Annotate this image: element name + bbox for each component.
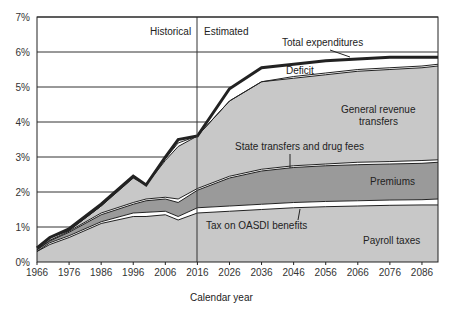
- y-tick-label: 3%: [16, 152, 31, 163]
- pointer-total-expenditures: [330, 50, 350, 57]
- x-tick-label: 2076: [379, 267, 402, 278]
- label-premiums: Premiums: [370, 176, 415, 187]
- x-axis-ticks: 1966197619861996200620162026203620462056…: [26, 262, 434, 278]
- stacked-areas: [37, 57, 438, 262]
- y-tick-label: 1%: [16, 222, 31, 233]
- y-tick-label: 7%: [16, 12, 31, 23]
- historical-label: Historical: [150, 26, 191, 37]
- label-state-transfers: State transfers and drug fees: [235, 141, 364, 152]
- x-tick-label: 2026: [218, 267, 241, 278]
- x-tick-label: 2046: [283, 267, 306, 278]
- label-tax-oasdi: Tax on OASDI benefits: [206, 220, 307, 231]
- label-total-expenditures: Total expenditures: [282, 37, 363, 48]
- y-tick-label: 5%: [16, 82, 31, 93]
- x-tick-label: 2086: [411, 267, 434, 278]
- y-axis-ticks: 0%1%2%3%4%5%6%7%: [16, 12, 31, 268]
- x-tick-label: 1996: [122, 267, 145, 278]
- x-tick-label: 2016: [186, 267, 209, 278]
- x-axis-title: Calendar year: [190, 292, 253, 303]
- label-general-revenue-line1: General revenue: [341, 104, 416, 115]
- y-tick-label: 2%: [16, 187, 31, 198]
- chart: 0%1%2%3%4%5%6%7% 19661976198619962006201…: [0, 0, 450, 311]
- label-deficit: Deficit: [286, 65, 314, 76]
- y-tick-label: 4%: [16, 117, 31, 128]
- label-general-revenue-line2: transfers: [359, 116, 398, 127]
- x-tick-label: 2036: [250, 267, 273, 278]
- x-tick-label: 2006: [154, 267, 177, 278]
- x-tick-label: 1986: [90, 267, 113, 278]
- x-tick-label: 1966: [26, 267, 49, 278]
- y-tick-label: 6%: [16, 47, 31, 58]
- label-payroll-taxes: Payroll taxes: [363, 235, 420, 246]
- x-tick-label: 2066: [347, 267, 370, 278]
- x-tick-label: 2056: [315, 267, 338, 278]
- estimated-label: Estimated: [204, 26, 248, 37]
- x-tick-label: 1976: [58, 267, 81, 278]
